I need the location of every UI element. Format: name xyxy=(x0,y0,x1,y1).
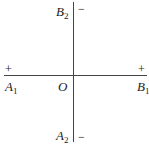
sign-B2: − xyxy=(78,3,85,15)
label-A2: A2 xyxy=(56,129,68,147)
label-B2: B2 xyxy=(56,5,68,23)
label-B1: B1 xyxy=(137,80,149,98)
label-origin-O: O xyxy=(58,80,67,93)
sign-B1: + xyxy=(138,63,145,75)
sign-A2: − xyxy=(78,131,85,143)
sign-A1: + xyxy=(5,63,12,75)
horizontal-axis-A1-B1 xyxy=(4,75,147,76)
label-A1: A1 xyxy=(5,80,17,98)
vertical-axis-A2-B2 xyxy=(73,2,74,142)
